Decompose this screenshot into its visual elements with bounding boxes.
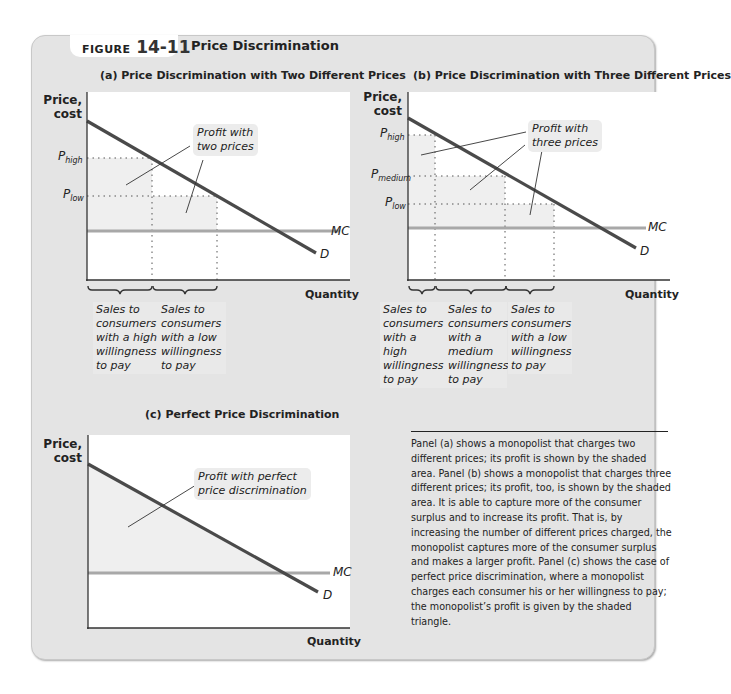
panel-b-profit-callout: Profit with three prices — [528, 120, 602, 152]
panel-b-p-low: Plow — [385, 195, 406, 211]
panel-a-sales-high: Sales toconsumerswith a highwillingnesst… — [93, 302, 161, 374]
panel-b-d-label: D — [640, 244, 649, 258]
panel-c-plot — [87, 435, 350, 629]
y-axis-line1: Price, — [362, 90, 402, 104]
callout-line1: Profit with perfect — [198, 470, 307, 484]
panel-c-mc-label: MC — [333, 565, 352, 579]
panel-a-plot — [86, 92, 350, 294]
y-axis-line1: Price, — [38, 437, 82, 451]
panel-b-x-axis-label: Quantity — [625, 288, 679, 301]
y-axis-line2: cost — [38, 107, 82, 121]
panel-b-sales-medium: Sales toconsumerswith amediumwillingness… — [445, 302, 507, 388]
callout-line1: Profit with — [532, 122, 598, 136]
panel-a-mc-label: MC — [331, 224, 350, 238]
caption-divider — [411, 431, 668, 432]
panel-a-p-low: Plow — [63, 187, 84, 203]
callout-line2: two prices — [197, 140, 254, 154]
callout-line2: price discrimination — [198, 484, 307, 498]
panel-b-y-axis-label: Price, cost — [362, 90, 402, 118]
panel-c-profit-callout: Profit with perfect price discrimination — [194, 468, 311, 500]
y-axis-line2: cost — [38, 451, 82, 465]
panel-b-p-high: Phigh — [380, 126, 405, 142]
callout-line1: Profit with — [197, 126, 254, 140]
panel-c-d-label: D — [323, 588, 332, 602]
y-axis-line1: Price, — [38, 93, 82, 107]
callout-line2: three prices — [532, 136, 598, 150]
y-axis-line2: cost — [362, 104, 402, 118]
panel-a-p-high: Phigh — [58, 149, 83, 165]
panel-b-sales-low: Sales toconsumerswith a lowwillingnessto… — [508, 302, 572, 374]
panel-b-p-medium: Pmedium — [371, 167, 411, 183]
panel-c-x-axis-label: Quantity — [307, 635, 361, 648]
panel-b-sales-high: Sales toconsumerswith a highwillingnesst… — [380, 302, 446, 388]
panel-a-d-label: D — [320, 247, 329, 261]
panel-a-sales-low: Sales toconsumerswith a lowwillingnessto… — [158, 302, 226, 374]
panel-a-y-axis-label: Price, cost — [38, 93, 82, 121]
panel-b-mc-label: MC — [648, 220, 667, 234]
panel-a-x-axis-label: Quantity — [305, 288, 359, 301]
figure-caption: Panel (a) shows a monopolist that charge… — [411, 437, 673, 629]
panel-a-profit-callout: Profit with two prices — [193, 124, 258, 156]
panel-c-y-axis-label: Price, cost — [38, 437, 82, 465]
